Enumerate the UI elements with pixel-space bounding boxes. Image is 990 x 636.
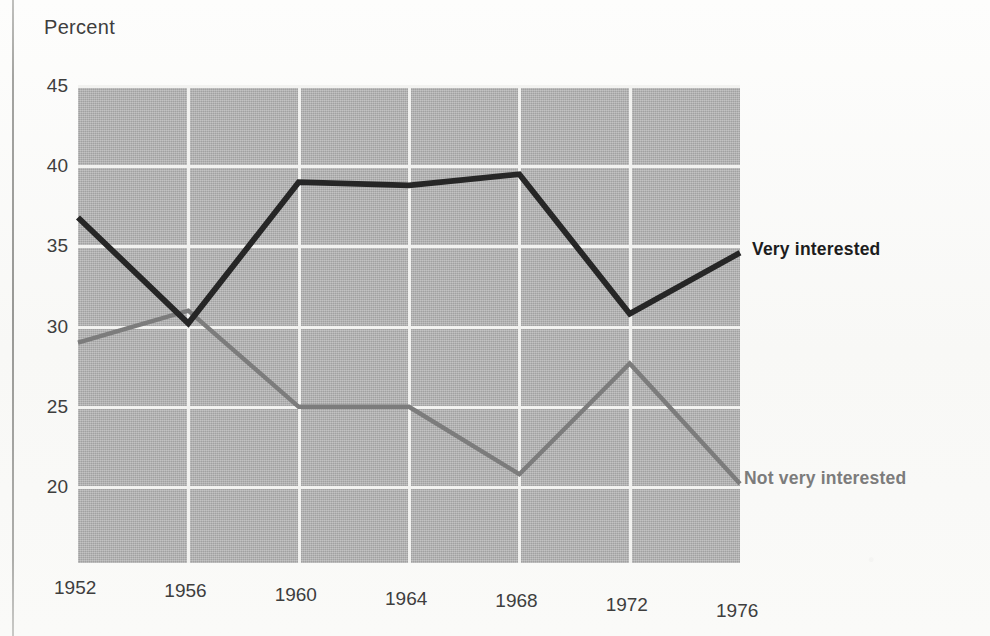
legend-label-not-very-interested: Not very interested bbox=[744, 468, 906, 489]
legend-label-very-interested: Very interested bbox=[752, 239, 880, 260]
series-line-not-very-interested bbox=[78, 311, 740, 484]
series-lines bbox=[0, 0, 990, 636]
line-chart: Percent 454035302520 1952195619601964196… bbox=[0, 0, 990, 636]
series-line-very-interested bbox=[78, 174, 740, 323]
